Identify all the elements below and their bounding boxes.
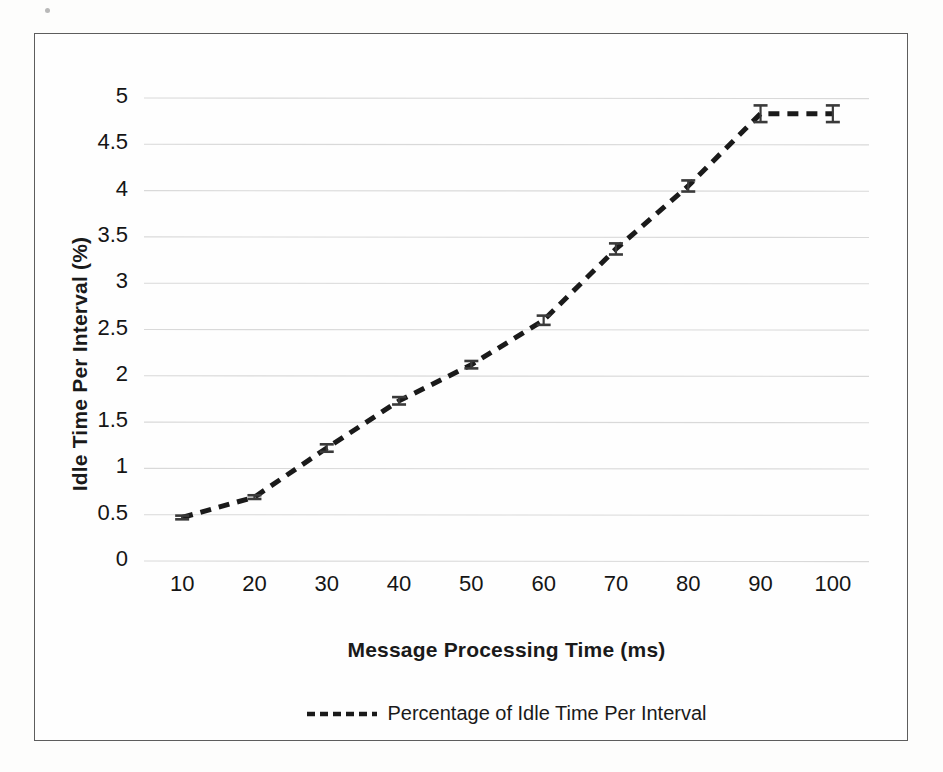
gridlines-group [144,98,869,562]
chart-frame: 00.511.522.533.544.55 102030405060708090… [34,33,908,741]
gridline [144,283,869,284]
gridline [144,98,869,99]
x-tick-label: 100 [798,571,868,597]
x-tick-label: 30 [292,571,362,597]
x-tick-label: 50 [436,571,506,597]
data-series-group [175,105,840,519]
gridline [144,515,869,516]
legend-entry-label: Percentage of Idle Time Per Interval [387,702,706,725]
x-tick-label: 40 [364,571,434,597]
y-axis-title: Idle Time Per Interval (%) [68,237,92,492]
x-tick-label: 80 [653,571,723,597]
data-line [182,114,833,518]
gridline [144,422,869,423]
scan-artifact-speck [45,8,50,13]
x-tick-label: 10 [147,571,217,597]
gridline [144,144,869,145]
x-tick-label: 70 [581,571,651,597]
legend-dashed-line-icon [306,707,378,721]
chart-legend: Percentage of Idle Time Per Interval [35,702,943,725]
gridline [144,237,869,238]
y-tick-label: 5 [58,83,128,109]
gridline [144,191,869,192]
line-chart-plot [35,34,906,739]
x-tick-label: 90 [726,571,796,597]
gridline [144,376,869,377]
error-bar [247,495,261,499]
x-tick-label: 60 [509,571,579,597]
error-bar [320,444,334,451]
gridline [144,330,869,331]
y-axis-title-wrapper: Idle Time Per Interval (%) [68,134,92,594]
x-axis-title: Message Processing Time (ms) [35,638,943,662]
gridline [144,468,869,469]
x-tick-label: 20 [219,571,289,597]
gridline [144,561,869,562]
figure-container: 00.511.522.533.544.55 102030405060708090… [0,0,943,772]
